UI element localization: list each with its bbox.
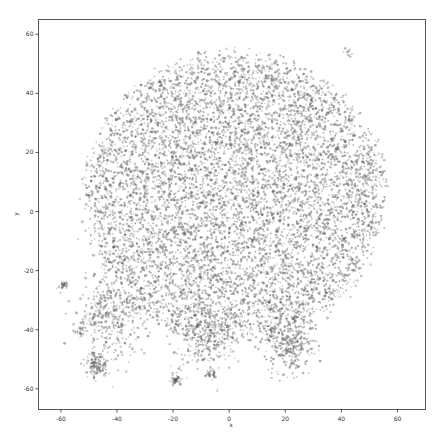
x-tick-label: 20 [281,415,289,422]
y-tick-label: 20 [26,148,34,155]
y-tick-label: 0 [30,208,34,215]
y-axis-ticks: -60-40-200204060 [24,30,39,392]
x-tick-label: -60 [56,415,66,422]
x-tick-label: 40 [338,415,346,422]
x-tick-label: -40 [112,415,122,422]
scatter-points [56,46,389,391]
y-tick-label: -60 [24,385,34,392]
y-axis-label: y [12,212,20,216]
x-axis-ticks: -60-40-200204060 [56,410,401,422]
scatter-chart: -60-40-200204060 -60-40-200204060 x y [0,0,447,438]
y-tick-label: -40 [24,326,34,333]
x-tick-label: -20 [168,415,178,422]
x-tick-label: 60 [394,415,402,422]
y-tick-label: -20 [24,267,34,274]
y-tick-label: 40 [26,89,34,96]
x-axis-label: x [229,421,233,428]
y-tick-label: 60 [26,30,34,37]
